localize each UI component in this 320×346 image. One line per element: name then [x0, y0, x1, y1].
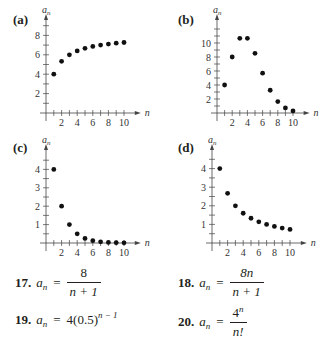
- y-tick-label: 4: [35, 69, 40, 80]
- y-tick-label: 2: [206, 94, 211, 105]
- x-tick-label: 10: [288, 117, 298, 128]
- exercise-subscript: n: [206, 321, 211, 331]
- y-axis-label: an: [213, 4, 222, 17]
- y-tick-label: 1: [201, 219, 206, 230]
- x-tick-label: 4: [75, 247, 80, 258]
- x-tick-label: 8: [106, 247, 111, 258]
- numerator: 8n: [237, 265, 256, 282]
- exercise-number: 20.: [178, 314, 194, 330]
- x-axis-label: n: [311, 237, 316, 248]
- y-tick-label: 8: [35, 30, 40, 41]
- x-tick-label: 2: [230, 117, 235, 128]
- data-point: [51, 167, 56, 172]
- data-point: [51, 72, 56, 77]
- x-tick-label: 8: [106, 117, 111, 128]
- exercise-19: 19. an = 4(0.5)n − 1: [15, 312, 118, 328]
- y-axis-label: an: [42, 134, 51, 147]
- data-point: [67, 222, 72, 227]
- data-point: [90, 238, 95, 243]
- y-tick-label: 4: [206, 80, 211, 91]
- x-tick-label: 2: [59, 117, 64, 128]
- chart-b: 246810246810nan: [160, 0, 320, 130]
- y-tick-label: 6: [35, 49, 40, 60]
- data-point: [260, 71, 265, 76]
- data-point: [75, 49, 80, 54]
- x-tick-label: 10: [119, 247, 129, 258]
- data-point: [67, 52, 72, 57]
- denominator: n!: [230, 322, 247, 340]
- fraction: 8n n + 1: [230, 265, 264, 300]
- y-tick-label: 3: [201, 182, 206, 193]
- x-tick-label: 4: [245, 117, 250, 128]
- x-tick-label: 8: [272, 247, 277, 258]
- y-axis-label: an: [208, 134, 217, 147]
- base: 4(0.5): [67, 312, 98, 328]
- x-axis-label: n: [314, 107, 319, 118]
- data-point: [256, 219, 261, 224]
- data-point: [233, 203, 238, 208]
- equals-sign: =: [53, 275, 60, 291]
- x-axis-arrow-icon: [135, 111, 141, 115]
- numerator: 8: [77, 265, 90, 282]
- data-point: [122, 240, 127, 245]
- data-point: [222, 83, 227, 88]
- data-point: [225, 191, 230, 196]
- data-point: [245, 36, 250, 41]
- numerator-exponent: n: [239, 304, 244, 314]
- x-tick-label: 10: [285, 247, 295, 258]
- y-tick-label: 4: [201, 163, 206, 174]
- y-tick-label: 8: [206, 52, 211, 63]
- data-point: [114, 41, 119, 46]
- exercise-subscript: n: [43, 282, 48, 292]
- data-point: [268, 88, 273, 93]
- data-point: [59, 59, 64, 64]
- data-point: [288, 227, 293, 232]
- exercise-subscript: n: [43, 319, 48, 329]
- y-axis-label: an: [42, 4, 51, 17]
- y-tick-label: 4: [35, 164, 40, 175]
- chart-d: 2468101234nan: [160, 130, 320, 260]
- x-tick-label: 6: [90, 247, 95, 258]
- data-point: [275, 99, 280, 104]
- data-point: [264, 222, 269, 227]
- x-axis-label: n: [145, 237, 150, 248]
- data-point: [98, 239, 103, 244]
- x-axis-arrow-icon: [304, 111, 310, 115]
- data-point: [106, 240, 111, 245]
- y-tick-label: 3: [35, 182, 40, 193]
- numerator: 4n: [230, 304, 247, 322]
- equals-sign: =: [216, 314, 223, 330]
- y-tick-label: 1: [35, 219, 40, 230]
- equals-sign: =: [216, 275, 223, 291]
- exponent: n − 1: [98, 310, 118, 320]
- exercise-number: 18.: [178, 275, 194, 291]
- data-point: [280, 226, 285, 231]
- denominator: n + 1: [67, 282, 101, 300]
- x-tick-label: 8: [275, 117, 280, 128]
- x-axis-arrow-icon: [135, 241, 141, 245]
- chart-c: 2468101234nan: [0, 130, 160, 260]
- denominator: n + 1: [230, 282, 264, 300]
- data-point: [83, 236, 88, 241]
- data-point: [291, 109, 296, 114]
- y-tick-label: 2: [35, 88, 40, 99]
- data-point: [230, 55, 235, 60]
- x-tick-label: 4: [75, 117, 80, 128]
- data-point: [90, 44, 95, 49]
- y-tick-label: 6: [206, 66, 211, 77]
- fraction: 8 n + 1: [67, 265, 101, 300]
- data-point: [249, 216, 254, 221]
- data-point: [272, 224, 277, 229]
- exercise-subscript: n: [206, 282, 211, 292]
- x-tick-label: 2: [59, 247, 64, 258]
- exercise-20: 20. an = 4n n!: [178, 304, 247, 340]
- x-axis-label: n: [145, 107, 150, 118]
- data-point: [237, 36, 242, 41]
- data-point: [75, 231, 80, 236]
- x-tick-label: 2: [225, 247, 230, 258]
- data-point: [253, 51, 258, 56]
- y-tick-label: 10: [201, 38, 211, 49]
- x-tick-label: 10: [119, 117, 129, 128]
- data-point: [283, 106, 288, 111]
- data-point: [114, 240, 119, 245]
